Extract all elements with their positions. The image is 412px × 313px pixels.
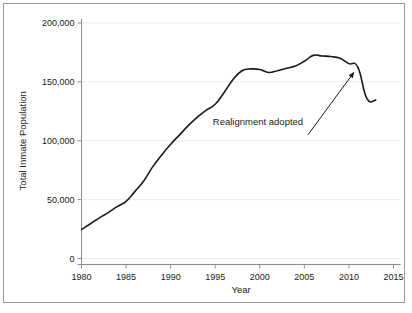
annotation-arrow-head-0 — [349, 72, 355, 78]
y-tick-label-1: 50,000 — [47, 195, 75, 205]
annotation-arrow-line-0 — [308, 74, 352, 134]
chart-figure: 050,000100,000150,000200,000 19801985199… — [0, 0, 412, 313]
x-tick-label-4: 2000 — [250, 272, 270, 282]
gridlines-group — [82, 23, 401, 259]
annotation-label-0: Realignment adopted — [213, 116, 303, 127]
x-axis-title: Year — [231, 284, 250, 295]
x-axis-ticks-group — [82, 265, 394, 269]
x-tick-label-6: 2010 — [339, 272, 359, 282]
annotations-group: Realignment adopted — [213, 72, 354, 135]
x-tick-label-7: 2015 — [383, 272, 403, 282]
x-tick-label-0: 1980 — [71, 272, 91, 282]
x-axis-tick-labels: 19801985199019952000200520102015 — [71, 272, 403, 282]
data-series-line — [82, 55, 376, 230]
y-tick-label-2: 100,000 — [42, 136, 75, 146]
y-tick-label-3: 150,000 — [42, 77, 75, 87]
line-chart-plot: 050,000100,000150,000200,000 19801985199… — [0, 0, 412, 313]
x-tick-label-3: 1995 — [205, 272, 225, 282]
y-axis-ticks-group — [78, 23, 82, 259]
y-tick-label-4: 200,000 — [42, 18, 75, 28]
x-tick-label-2: 1990 — [161, 272, 181, 282]
y-axis-title: Total Inmate Population — [17, 91, 28, 190]
x-tick-label-1: 1985 — [116, 272, 136, 282]
y-axis-tick-labels: 050,000100,000150,000200,000 — [42, 18, 75, 264]
y-tick-label-0: 0 — [69, 254, 74, 264]
x-tick-label-5: 2005 — [294, 272, 314, 282]
